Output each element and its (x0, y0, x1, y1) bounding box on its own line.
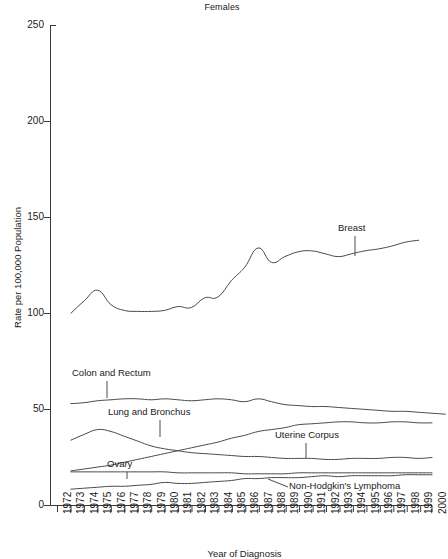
x-tick-label-1976: 1976 (116, 470, 127, 514)
y-tick-label-150: 150 (4, 211, 44, 222)
y-tick-label-0: 0 (4, 499, 44, 510)
x-tick-label-1986: 1986 (249, 470, 260, 514)
series-label-ovary: Ovary (107, 458, 132, 469)
x-tick-label-1993: 1993 (343, 470, 354, 514)
x-tick-label-1980: 1980 (169, 470, 180, 514)
series-group (71, 240, 446, 489)
x-tick-label-1999: 1999 (423, 470, 434, 514)
series-label-colon-and-rectum: Colon and Rectum (72, 367, 151, 378)
x-tick-label-1987: 1987 (263, 470, 274, 514)
y-tick-label-50: 50 (4, 403, 44, 414)
series-line-breast (71, 240, 419, 313)
y-tick-label-250: 250 (4, 19, 44, 30)
x-axis-title: Year of Diagnosis (57, 548, 432, 559)
x-tick-label-1996: 1996 (383, 470, 394, 514)
x-tick-label-1992: 1992 (330, 470, 341, 514)
x-tick-label-1989: 1989 (289, 470, 300, 514)
x-tick-label-1983: 1983 (209, 470, 220, 514)
x-tick-label-1979: 1979 (156, 470, 167, 514)
series-label-uterine-corpus: Uterine Corpus (275, 429, 339, 440)
series-line-uterine-corpus (71, 429, 432, 459)
x-tick-label-1984: 1984 (223, 470, 234, 514)
x-tick-label-1990: 1990 (303, 470, 314, 514)
x-tick-label-1973: 1973 (75, 470, 86, 514)
y-tick-label-200: 200 (4, 115, 44, 126)
series-label-non-hodgkins-lymphoma: Non-Hodgkin's Lymphoma (289, 480, 400, 491)
x-tick-label-1997: 1997 (396, 470, 407, 514)
series-label-breast: Breast (338, 222, 365, 233)
x-tick-label-2000: 2000 (437, 470, 448, 514)
series-label-lung-and-bronchus: Lung and Bronchus (108, 406, 190, 417)
x-tick-label-1991: 1991 (316, 470, 327, 514)
x-tick-label-1972: 1972 (62, 470, 73, 514)
x-tick-label-1975: 1975 (102, 470, 113, 514)
x-tick-label-1982: 1982 (196, 470, 207, 514)
annotation-leader-lines (107, 236, 355, 487)
y-tick-label-100: 100 (4, 307, 44, 318)
x-tick-label-1985: 1985 (236, 470, 247, 514)
x-tick-label-1974: 1974 (89, 470, 100, 514)
x-tick-label-1998: 1998 (410, 470, 421, 514)
x-tick-label-1981: 1981 (182, 470, 193, 514)
x-tick-label-1994: 1994 (356, 470, 367, 514)
x-tick-label-1988: 1988 (276, 470, 287, 514)
x-tick-label-1977: 1977 (129, 470, 140, 514)
x-tick-label-1995: 1995 (370, 470, 381, 514)
y-axis (44, 25, 56, 506)
x-tick-label-1978: 1978 (142, 470, 153, 514)
